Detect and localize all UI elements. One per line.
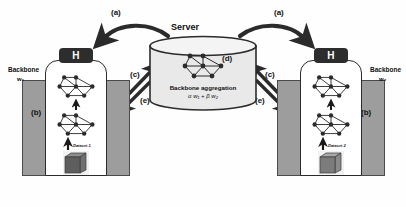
client-2-network-bottom-icon (311, 111, 351, 138)
client-2-up-arrow-bottom (319, 140, 327, 151)
hospital-sign-icon: H (59, 48, 93, 63)
dataset-2-label: Dataset 2 (328, 143, 346, 148)
dataset-2-cube-icon (318, 151, 344, 175)
client-2-network-top-icon (311, 73, 351, 100)
client-2: (b) H (277, 60, 385, 176)
dataset-1-label: Dataset 1 (73, 143, 91, 148)
tag-c-left: (c) (130, 70, 140, 79)
client-1-up-arrow-bottom (64, 140, 72, 151)
client-2-up-arrow-top (327, 101, 335, 111)
tag-d: (d) (222, 54, 232, 63)
tag-a-left: (a) (111, 8, 121, 17)
dataset-1-cube-icon (63, 151, 89, 175)
hospital-sign-icon-2: H (314, 48, 348, 63)
client-1-building: H (45, 60, 107, 176)
figure-canvas: (a) (a) (c) (e) (c) (e) Server (0, 0, 406, 207)
aggregation-label: Backbone aggregation (148, 84, 258, 91)
tag-b-right: (b) (361, 108, 371, 117)
backbone-weight-left: w₁ (17, 76, 24, 82)
client-1: (b) H (22, 60, 130, 176)
server-label: Server (171, 22, 199, 32)
aggregation-formula: α w₁ + β w₂ (148, 93, 258, 99)
client-1-network-top-icon (56, 73, 96, 100)
tag-b-left: (b) (31, 108, 41, 117)
client-2-building: H (300, 60, 362, 176)
client-1-up-arrow-top (72, 101, 80, 111)
backbone-weight-right: w₂ (379, 76, 386, 82)
server-cylinder: (d) Backbone aggregation α w₁ + β w₂ (148, 36, 258, 110)
backbone-label-left: Backbone (8, 66, 39, 73)
client-1-network-bottom-icon (56, 111, 96, 138)
tag-a-right: (a) (274, 8, 284, 17)
backbone-label-right: Backbone (370, 66, 401, 73)
server-network-icon (181, 52, 225, 80)
tag-c-right: (c) (265, 70, 275, 79)
